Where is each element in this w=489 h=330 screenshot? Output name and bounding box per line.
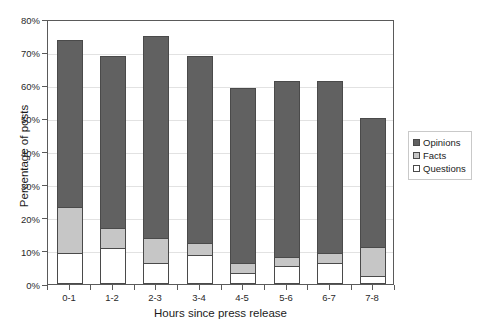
legend-swatch-questions xyxy=(413,165,420,172)
bar-segment-opinions[interactable] xyxy=(57,40,83,208)
x-tick-mark xyxy=(155,285,156,290)
plot-area xyxy=(47,20,394,285)
x-tick-mark xyxy=(372,285,373,290)
bar-group[interactable] xyxy=(57,41,83,284)
bar-segment-facts[interactable] xyxy=(187,243,213,256)
bar-group[interactable] xyxy=(360,119,386,284)
bar-segment-facts[interactable] xyxy=(317,253,343,264)
bar-segment-facts[interactable] xyxy=(57,207,83,254)
y-tick-label: 40% xyxy=(0,147,40,158)
x-boundary-tick xyxy=(90,285,91,290)
bar-series-container xyxy=(48,21,393,284)
x-tick-label: 3-4 xyxy=(179,292,219,303)
bar-segment-facts[interactable] xyxy=(100,228,126,249)
x-tick-label: 0-1 xyxy=(49,292,89,303)
y-tick-mark xyxy=(42,20,47,21)
bar-segment-facts[interactable] xyxy=(360,247,386,278)
x-tick-mark xyxy=(329,285,330,290)
x-boundary-tick xyxy=(394,285,395,290)
bar-group[interactable] xyxy=(143,37,169,284)
bar-segment-opinions[interactable] xyxy=(187,56,213,244)
y-tick-label: 50% xyxy=(0,114,40,125)
x-tick-mark xyxy=(199,285,200,290)
bar-group[interactable] xyxy=(317,82,343,284)
bar-group[interactable] xyxy=(230,89,256,284)
x-tick-mark xyxy=(112,285,113,290)
y-tick-mark xyxy=(42,119,47,120)
bar-segment-questions[interactable] xyxy=(143,263,169,284)
x-tick-label: 6-7 xyxy=(309,292,349,303)
x-boundary-tick xyxy=(221,285,222,290)
y-tick-label: 80% xyxy=(0,15,40,26)
bar-segment-opinions[interactable] xyxy=(360,118,386,248)
bar-segment-questions[interactable] xyxy=(187,255,213,284)
y-tick-mark xyxy=(42,152,47,153)
bar-segment-opinions[interactable] xyxy=(274,81,300,258)
bar-segment-questions[interactable] xyxy=(230,273,256,284)
x-boundary-tick xyxy=(307,285,308,290)
x-tick-label: 4-5 xyxy=(222,292,262,303)
legend-item-questions: Questions xyxy=(413,162,466,175)
x-axis-title: Hours since press release xyxy=(47,307,394,319)
legend-swatch-opinions xyxy=(413,139,420,146)
x-tick-label: 1-2 xyxy=(92,292,132,303)
y-tick-label: 30% xyxy=(0,180,40,191)
stacked-bar-chart: Percentage of posts 0%10%20%30%40%50%60%… xyxy=(0,0,489,330)
bar-segment-opinions[interactable] xyxy=(317,81,343,254)
x-boundary-tick xyxy=(134,285,135,290)
y-tick-label: 60% xyxy=(0,81,40,92)
legend-label-questions: Questions xyxy=(423,163,466,174)
y-tick-mark xyxy=(42,185,47,186)
x-tick-mark xyxy=(286,285,287,290)
bar-segment-facts[interactable] xyxy=(230,263,256,274)
x-boundary-tick xyxy=(351,285,352,290)
y-tick-mark xyxy=(42,53,47,54)
x-tick-label: 2-3 xyxy=(135,292,175,303)
bar-segment-questions[interactable] xyxy=(360,276,386,284)
y-tick-mark xyxy=(42,86,47,87)
legend-swatch-facts xyxy=(413,152,420,159)
bar-group[interactable] xyxy=(100,57,126,284)
y-tick-label: 70% xyxy=(0,48,40,59)
bar-segment-facts[interactable] xyxy=(274,257,300,268)
legend-label-facts: Facts xyxy=(423,150,446,161)
y-tick-mark xyxy=(42,218,47,219)
bar-segment-questions[interactable] xyxy=(274,266,300,284)
legend-item-opinions: Opinions xyxy=(413,136,466,149)
bar-segment-opinions[interactable] xyxy=(230,88,256,265)
x-boundary-tick xyxy=(264,285,265,290)
y-tick-label: 20% xyxy=(0,213,40,224)
bar-segment-opinions[interactable] xyxy=(100,56,126,229)
bar-segment-questions[interactable] xyxy=(100,248,126,284)
y-tick-label: 10% xyxy=(0,246,40,257)
x-boundary-tick xyxy=(47,285,48,290)
legend: Opinions Facts Questions xyxy=(408,131,472,180)
x-boundary-tick xyxy=(177,285,178,290)
bar-segment-questions[interactable] xyxy=(57,253,83,284)
y-tick-mark xyxy=(42,251,47,252)
x-tick-mark xyxy=(69,285,70,290)
x-tick-label: 7-8 xyxy=(352,292,392,303)
x-tick-label: 5-6 xyxy=(266,292,306,303)
bar-segment-opinions[interactable] xyxy=(143,36,169,239)
bar-segment-questions[interactable] xyxy=(317,263,343,284)
x-tick-mark xyxy=(242,285,243,290)
bar-group[interactable] xyxy=(274,82,300,284)
legend-label-opinions: Opinions xyxy=(423,137,461,148)
bar-group[interactable] xyxy=(187,57,213,284)
y-tick-label: 0% xyxy=(0,280,40,291)
bar-segment-facts[interactable] xyxy=(143,238,169,264)
legend-item-facts: Facts xyxy=(413,149,466,162)
